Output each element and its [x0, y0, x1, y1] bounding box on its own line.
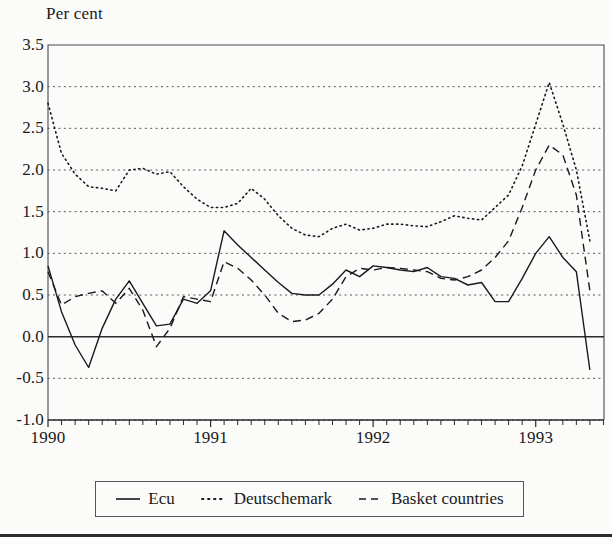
- solid-line-icon: [115, 494, 141, 504]
- legend-item[interactable]: Deutschemark: [201, 489, 332, 509]
- chart-legend: EcuDeutschemarkBasket countries: [95, 481, 524, 517]
- legend-label: Basket countries: [391, 489, 504, 509]
- dashed-line-icon: [358, 494, 384, 504]
- bottom-divider: [0, 534, 612, 537]
- plot-area: [0, 0, 612, 544]
- chart-figure: Per cent 3.53.02.52.01.51.00.50.0-0.5-1.…: [0, 0, 612, 544]
- legend-label: Deutschemark: [234, 489, 332, 509]
- dotted-line-icon: [201, 494, 227, 504]
- series-line-dashed: [48, 145, 590, 347]
- plot-frame: [48, 45, 604, 420]
- series-line-dotted: [48, 83, 590, 241]
- legend-entries: EcuDeutschemarkBasket countries: [96, 482, 523, 516]
- legend-label: Ecu: [148, 489, 174, 509]
- series-line-solid: [48, 231, 590, 370]
- legend-item[interactable]: Basket countries: [358, 489, 504, 509]
- legend-item[interactable]: Ecu: [115, 489, 174, 509]
